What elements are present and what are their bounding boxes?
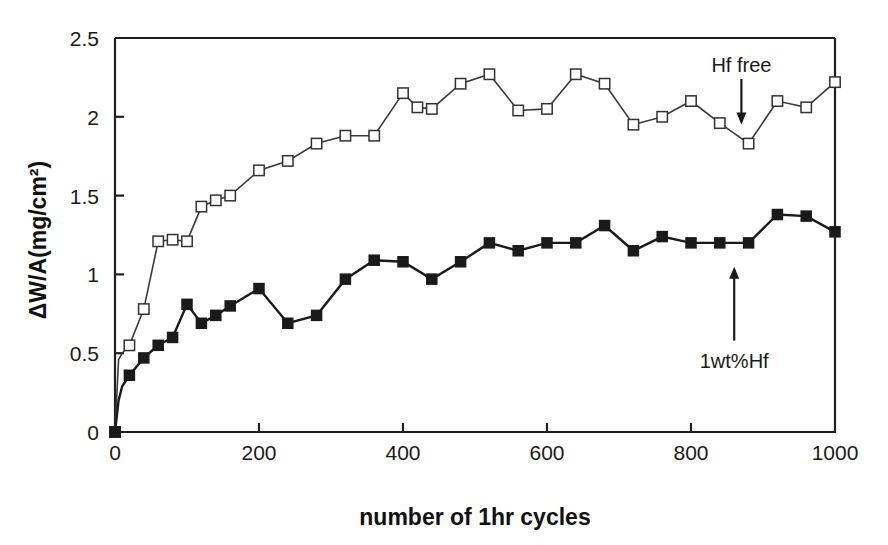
- data-point-marker: [628, 246, 638, 256]
- data-point-marker: [571, 69, 581, 79]
- data-point-marker: [124, 370, 134, 380]
- data-point-marker: [340, 274, 350, 284]
- data-point-marker: [513, 246, 523, 256]
- data-point-marker: [456, 257, 466, 267]
- data-point-marker: [686, 238, 696, 248]
- data-point-marker: [484, 238, 494, 248]
- data-point-marker: [830, 77, 840, 87]
- data-point-marker: [600, 221, 610, 231]
- data-point-marker: [772, 96, 782, 106]
- data-point-marker: [196, 318, 206, 328]
- data-point-marker: [427, 274, 437, 284]
- data-point-marker: [110, 427, 120, 437]
- data-point-marker: [225, 301, 235, 311]
- data-point-marker: [167, 235, 177, 245]
- data-point-marker: [628, 119, 638, 129]
- data-point-marker: [225, 190, 235, 200]
- x-tick-label: 600: [529, 441, 564, 464]
- data-point-marker: [801, 211, 811, 221]
- data-point-marker: [801, 102, 811, 112]
- data-point-marker: [283, 318, 293, 328]
- data-point-marker: [124, 340, 134, 350]
- data-point-marker: [542, 238, 552, 248]
- data-point-marker: [398, 257, 408, 267]
- data-point-marker: [182, 299, 192, 309]
- data-point-marker: [657, 112, 667, 122]
- data-point-marker: [283, 156, 293, 166]
- data-point-marker: [513, 105, 523, 115]
- y-tick-label: 2.5: [70, 27, 99, 50]
- data-point-marker: [254, 284, 264, 294]
- annotation-label: Hf free: [711, 54, 771, 76]
- data-point-marker: [571, 238, 581, 248]
- y-tick-label: 1.5: [70, 185, 99, 208]
- data-point-marker: [599, 79, 609, 89]
- data-point-marker: [340, 131, 350, 141]
- data-point-marker: [542, 104, 552, 114]
- data-point-marker: [369, 255, 379, 265]
- y-tick-label: 1: [87, 263, 99, 286]
- x-tick-label: 200: [241, 441, 276, 464]
- y-tick-label: 2: [87, 106, 99, 129]
- y-tick-label: 0: [87, 421, 99, 444]
- x-tick-label: 1000: [812, 441, 859, 464]
- data-point-marker: [139, 304, 149, 314]
- y-axis-title: ΔW/A(mg/cm²): [25, 161, 51, 319]
- oxidation-weight-gain-chart: 02004006008001000 00.511.522.5 Hf free1w…: [0, 0, 888, 545]
- data-point-marker: [312, 310, 322, 320]
- data-point-marker: [412, 102, 422, 112]
- figure-container: 02004006008001000 00.511.522.5 Hf free1w…: [0, 0, 888, 545]
- data-point-marker: [369, 131, 379, 141]
- x-tick-label: 400: [385, 441, 420, 464]
- data-point-marker: [772, 210, 782, 220]
- data-point-marker: [153, 340, 163, 350]
- data-point-marker: [211, 310, 221, 320]
- data-point-marker: [657, 232, 667, 242]
- data-point-marker: [254, 165, 264, 175]
- data-point-marker: [311, 138, 321, 148]
- x-tick-label: 800: [673, 441, 708, 464]
- data-point-marker: [139, 353, 149, 363]
- data-point-marker: [743, 138, 753, 148]
- data-point-marker: [484, 69, 494, 79]
- annotation-label: 1wt%Hf: [700, 350, 769, 372]
- data-point-marker: [830, 227, 840, 237]
- data-point-marker: [455, 79, 465, 89]
- y-tick-label: 0.5: [70, 342, 99, 365]
- data-point-marker: [168, 332, 178, 342]
- data-point-marker: [153, 236, 163, 246]
- data-point-marker: [398, 88, 408, 98]
- data-point-marker: [715, 118, 725, 128]
- data-point-marker: [744, 238, 754, 248]
- data-point-marker: [196, 201, 206, 211]
- x-tick-label: 0: [109, 441, 121, 464]
- data-point-marker: [686, 96, 696, 106]
- data-point-marker: [182, 236, 192, 246]
- data-point-marker: [211, 195, 221, 205]
- data-point-marker: [427, 104, 437, 114]
- data-point-marker: [715, 238, 725, 248]
- x-axis-title: number of 1hr cycles: [359, 504, 590, 530]
